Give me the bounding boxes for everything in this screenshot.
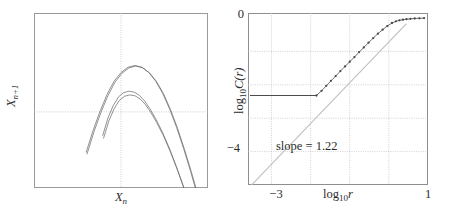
data-polyline: [316, 18, 424, 95]
data-point: [315, 94, 317, 96]
y-label-symbol: X: [4, 99, 18, 107]
left-axis-x-label: Xn: [34, 190, 208, 206]
right-plot-canvas: [248, 13, 428, 185]
gridlines: [248, 13, 428, 185]
data-point: [409, 18, 411, 20]
data-point: [372, 37, 374, 39]
y-tick-label-minus4: −4: [220, 141, 240, 156]
data-point: [330, 80, 332, 82]
data-point: [402, 19, 404, 21]
y-label-subscript: n+1: [10, 84, 20, 99]
data-point: [418, 17, 420, 19]
data-point: [349, 61, 351, 63]
y-label-base: 10: [238, 89, 248, 98]
data-point: [367, 42, 369, 44]
data-point: [398, 19, 400, 21]
data-point: [423, 17, 425, 19]
right-axis-x-label: log10r: [248, 187, 428, 203]
data-point: [386, 25, 388, 27]
data-point: [325, 85, 327, 87]
left-panel-return-map: Xn+1 Xn: [0, 0, 225, 214]
right-axis-y-label: log10C(r): [232, 45, 248, 137]
data-point: [377, 33, 379, 35]
data-point: [344, 65, 346, 67]
x-label-subscript: n: [123, 196, 128, 206]
x-label-symbol: X: [115, 190, 123, 204]
x-label-base: 10: [339, 193, 348, 203]
attractor-branch: [104, 95, 191, 188]
attractor-curves: [86, 66, 198, 189]
data-point: [320, 90, 322, 92]
y-label-variable: C(r): [232, 68, 246, 90]
left-axis-y-label: Xn+1: [4, 66, 20, 126]
figure-root: Xn+1 Xn 0 −4 −3 1 log10C(r) log10r slope…: [0, 0, 450, 214]
attractor-branch: [86, 66, 197, 189]
data-point: [363, 46, 365, 48]
slope-reference-line: [250, 24, 407, 185]
data-point: [414, 17, 416, 19]
y-label-log: log: [232, 98, 246, 114]
crosshair-guides: [34, 13, 208, 188]
data-point: [339, 70, 341, 72]
data-point: [353, 56, 355, 58]
data-point: [405, 18, 407, 20]
left-plot-canvas: [34, 13, 208, 188]
right-panel-correlation-plot: 0 −4 −3 1 log10C(r) log10r slope = 1.22: [225, 0, 450, 214]
attractor-branch: [87, 66, 198, 188]
data-point: [395, 20, 397, 22]
x-label-log: log: [323, 187, 339, 201]
slope-annotation: slope = 1.22: [276, 139, 338, 154]
data-point: [335, 75, 337, 77]
data-point: [358, 51, 360, 53]
data-point: [381, 29, 383, 31]
y-tick-label-0: 0: [224, 7, 244, 22]
x-label-variable: r: [348, 187, 353, 201]
slope-reference-line: [250, 24, 407, 185]
data-point: [391, 22, 393, 24]
